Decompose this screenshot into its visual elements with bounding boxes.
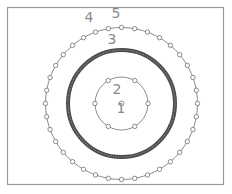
label-1: 1 (117, 100, 126, 116)
inner-hole (106, 124, 110, 128)
outer-hole (93, 173, 97, 177)
outer-hole (145, 30, 149, 34)
inner-hole (133, 78, 137, 82)
inner-hole (93, 101, 97, 105)
outer-hole (185, 63, 189, 67)
outer-hole (191, 75, 195, 79)
label-2: 2 (113, 81, 122, 97)
outer-hole (157, 167, 161, 171)
outer-hole (81, 167, 85, 171)
outer-hole (168, 43, 172, 47)
outer-hole (145, 173, 149, 177)
outer-hole (81, 35, 85, 39)
outer-hole (194, 88, 198, 92)
outer-hole (70, 160, 74, 164)
inner-hole (106, 78, 110, 82)
outer-hole (43, 101, 47, 105)
outer-hole (106, 176, 110, 180)
outer-hole (194, 114, 198, 118)
outer-hole (44, 114, 48, 118)
outer-hole (44, 88, 48, 92)
outer-hole (70, 43, 74, 47)
outer-hole (195, 101, 199, 105)
outer-hole (157, 35, 161, 39)
outer-hole (53, 139, 57, 143)
outer-hole (185, 139, 189, 143)
label-3: 3 (108, 31, 117, 47)
diagram-canvas: 1 2 3 4 5 (0, 0, 232, 194)
label-5: 5 (112, 5, 121, 21)
label-4: 4 (85, 9, 94, 25)
outer-hole (119, 177, 123, 181)
outer-hole (191, 127, 195, 131)
outer-hole (132, 176, 136, 180)
inner-hole (146, 101, 150, 105)
outer-hole (61, 150, 65, 154)
outer-hole (93, 30, 97, 34)
outer-hole (178, 52, 182, 56)
outer-hole (48, 127, 52, 131)
outer-hole (119, 25, 123, 29)
inner-hole (133, 124, 137, 128)
outer-hole (61, 52, 65, 56)
outer-hole (53, 63, 57, 67)
outer-hole (168, 160, 172, 164)
outer-hole (48, 75, 52, 79)
outer-hole (132, 26, 136, 30)
outer-hole (178, 150, 182, 154)
